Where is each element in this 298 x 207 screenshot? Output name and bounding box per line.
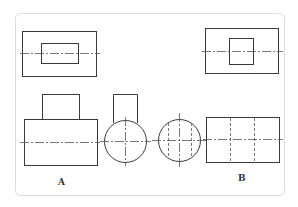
view-b-front-body xyxy=(207,118,280,163)
view-a-front xyxy=(20,95,100,166)
label-a: A xyxy=(57,177,66,187)
view-b-side xyxy=(152,113,206,168)
view-a-side xyxy=(100,95,151,167)
view-a-front-boss xyxy=(43,95,80,120)
view-a-side-circle xyxy=(105,121,147,163)
view-a-top-outer-rect xyxy=(23,32,97,77)
view-b-front xyxy=(203,118,283,163)
drawing-frame xyxy=(16,14,285,196)
view-b-top-outer-rect xyxy=(206,29,279,74)
label-b: B xyxy=(238,173,246,183)
drawing-canvas: A B xyxy=(0,0,298,207)
view-b-top xyxy=(202,29,283,74)
view-a-top xyxy=(20,32,100,77)
